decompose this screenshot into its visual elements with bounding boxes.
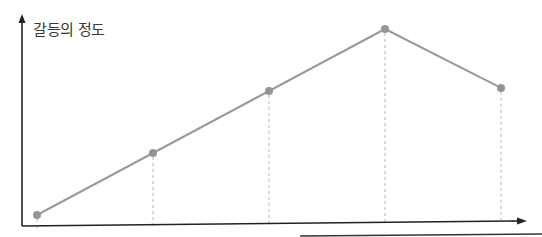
x-axis-arrow-icon [517, 218, 527, 225]
line-chart [0, 0, 542, 237]
drop-lines [37, 33, 501, 229]
bottom-edge-line [300, 234, 542, 236]
y-axis-arrow-icon [19, 14, 26, 23]
x-axis [22, 221, 518, 226]
data-point [149, 149, 157, 157]
data-point [497, 84, 505, 92]
data-point [265, 87, 273, 95]
data-point [33, 211, 41, 219]
data-point [381, 25, 389, 33]
